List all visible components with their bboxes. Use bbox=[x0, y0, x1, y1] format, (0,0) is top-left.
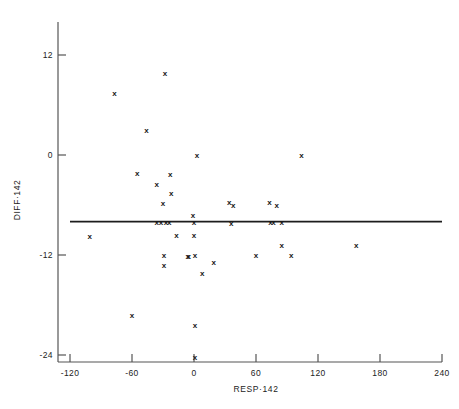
y-axis-label: DIFF·142 bbox=[12, 180, 22, 221]
x-tick-label: 120 bbox=[310, 368, 325, 378]
data-point-marker: x bbox=[144, 126, 149, 135]
data-point-marker: x bbox=[231, 201, 236, 210]
y-tick-label: 0 bbox=[48, 150, 53, 160]
y-tick-label: -12 bbox=[40, 250, 54, 260]
data-point-marker: x bbox=[289, 251, 294, 260]
data-point-marker: x bbox=[200, 269, 205, 278]
data-point-marker: x bbox=[168, 170, 173, 179]
x-tick-label: -60 bbox=[125, 368, 139, 378]
data-point-marker: x bbox=[162, 251, 167, 260]
data-point-group: xxxxxxxxxxxxxxxxxxxxxxxxxxxxxxxxxxxxxxxx… bbox=[87, 69, 359, 361]
plot-canvas: 120-12-24 -120-60060120180240 xxxxxxxxxx… bbox=[0, 0, 459, 409]
x-tick-label: 60 bbox=[251, 368, 261, 378]
x-tick-label: 180 bbox=[372, 368, 387, 378]
data-point-marker: x bbox=[161, 199, 166, 208]
data-point-marker: x bbox=[193, 321, 198, 330]
data-point-marker: x bbox=[195, 151, 200, 160]
y-axis-ticks: 120-12-24 bbox=[40, 50, 67, 360]
x-axis-label: RESP·142 bbox=[234, 384, 279, 394]
data-point-marker: x bbox=[271, 218, 276, 227]
x-axis-ticks: -120-60060120180240 bbox=[61, 354, 450, 378]
data-point-marker: x bbox=[135, 169, 140, 178]
data-point-marker: x bbox=[87, 232, 92, 241]
data-point-marker: x bbox=[267, 198, 272, 207]
data-point-marker: x bbox=[174, 231, 179, 240]
data-point-marker: x bbox=[211, 258, 216, 267]
data-point-marker: x bbox=[192, 218, 197, 227]
data-point-marker: x bbox=[192, 231, 197, 240]
y-tick-label: -24 bbox=[40, 350, 54, 360]
data-point-marker: x bbox=[254, 251, 259, 260]
data-point-marker: x bbox=[193, 353, 198, 362]
data-point-marker: x bbox=[280, 218, 285, 227]
y-tick-label: 12 bbox=[43, 50, 53, 60]
data-point-marker: x bbox=[229, 219, 234, 228]
x-tick-label: 0 bbox=[191, 368, 196, 378]
data-point-marker: x bbox=[299, 151, 304, 160]
data-point-marker: x bbox=[280, 241, 285, 250]
data-point-marker: x bbox=[167, 218, 172, 227]
data-point-marker: x bbox=[354, 241, 359, 250]
data-point-marker: x bbox=[155, 180, 160, 189]
data-point-marker: x bbox=[274, 201, 279, 210]
x-tick-label: -120 bbox=[61, 368, 80, 378]
data-point-marker: x bbox=[187, 252, 192, 261]
data-point-marker: x bbox=[169, 189, 174, 198]
data-point-marker: x bbox=[163, 69, 168, 78]
scatter-plot-figure: 120-12-24 -120-60060120180240 xxxxxxxxxx… bbox=[0, 0, 459, 409]
data-point-marker: x bbox=[162, 261, 167, 270]
data-point-marker: x bbox=[130, 311, 135, 320]
x-tick-label: 240 bbox=[434, 368, 449, 378]
data-point-marker: x bbox=[112, 89, 117, 98]
data-point-marker: x bbox=[193, 251, 198, 260]
